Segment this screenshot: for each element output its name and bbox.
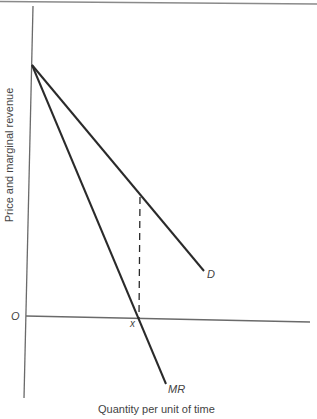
y-axis-label: Price and marginal revenue xyxy=(3,88,15,223)
x-intercept-label: x xyxy=(129,318,136,329)
demand-curve xyxy=(32,65,204,271)
x-axis-label: Quantity per unit of time xyxy=(98,403,215,415)
top-border-line xyxy=(0,2,317,5)
demand-mr-diagram: D MR x O Quantity per unit of time Price… xyxy=(0,0,317,419)
x-axis xyxy=(26,316,310,322)
origin-label: O xyxy=(11,310,20,322)
dashed-quantity-line xyxy=(139,197,140,318)
marginal-revenue-curve xyxy=(32,65,166,384)
marginal-revenue-label: MR xyxy=(168,383,185,395)
y-axis xyxy=(24,6,33,398)
demand-label: D xyxy=(207,268,215,280)
